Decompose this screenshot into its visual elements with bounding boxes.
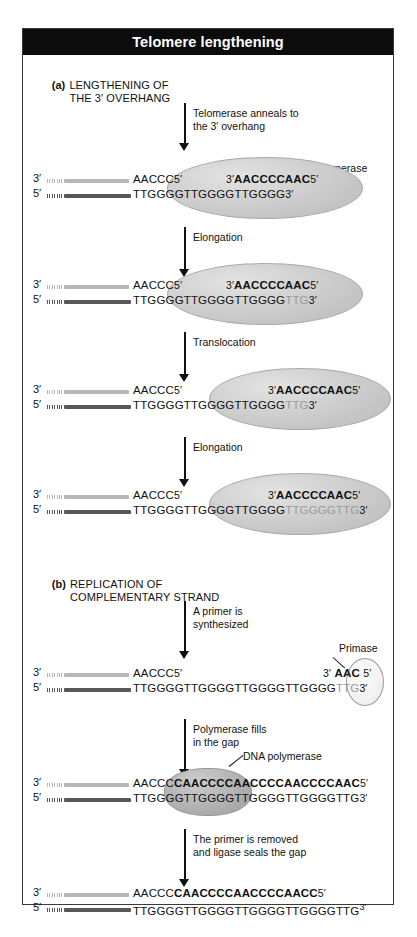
caption-elongation-1: Elongation [193, 231, 243, 244]
strand-top-bar [64, 285, 129, 289]
seq-text: TTGGGGTTGGGGTTGGGGTTGGGGTTG [133, 905, 359, 917]
arrow-translocation [179, 332, 190, 382]
arrow-anneal [179, 103, 190, 151]
rna-sequence: AACCCCAAC [234, 173, 310, 185]
strand-top-dots [47, 179, 64, 183]
strand-bot-dots [47, 798, 64, 802]
panel1-top-sequence: AACCC5′ [133, 173, 182, 185]
strand-top-bar [64, 179, 129, 183]
rna-left-end: 3′ [226, 279, 234, 291]
panel-ligase-sealed: 3′ 5′ AACCCCAACCCCAACCCCAACC5′ TTGGGGTTG… [23, 887, 393, 933]
panel3-bot-sequence: TTGGGGTTGGGGTTGGGGTTG3′ [133, 399, 317, 411]
strand-top-end-3: 3′ [33, 278, 41, 290]
seq-text: TTGGGGTTGGGGTTGGGG [133, 504, 285, 516]
strand-bot-end-5: 5′ [33, 293, 41, 305]
rna-sequence: AACCCCAAC [276, 489, 352, 501]
seq-end: 5′ [174, 279, 182, 291]
panel-primer-synthesis: 3′ 5′ AACCC5′ 3′ AAC 5′ TTGGGGTTGGGGTTGG… [23, 667, 393, 713]
strand-bot-bar [64, 194, 131, 198]
strand-top-dots [47, 893, 64, 897]
seq-text: AACCC [133, 279, 174, 291]
seq-newly-synthesized: TTG [285, 294, 308, 306]
strand-bot-bar [64, 908, 131, 912]
panel4-bot-sequence: TTGGGGTTGGGGTTGGGGTTGGGGTTG3′ [133, 504, 368, 516]
strand-top-end-3: 3′ [33, 383, 41, 395]
seq-end: 3′ [359, 792, 367, 804]
panel5-bot-sequence: TTGGGGTTGGGGTTGGGGTTGGGGTTG3′ [133, 682, 367, 694]
seq-end: 5′ [174, 384, 182, 396]
panel1-bot-sequence: TTGGGGTTGGGGTTGGGG3′ [133, 188, 293, 200]
caption-elongation-2: Elongation [193, 441, 243, 454]
rna-right-end: 5′ [352, 489, 360, 501]
strand-top-dots [47, 783, 64, 787]
strand-top-end-3: 3′ [33, 776, 41, 788]
strand-bot-dots [47, 908, 64, 912]
caption-primer: A primer is synthesized [193, 605, 248, 631]
section-a-marker: (a) [52, 79, 66, 91]
seq-newly-synthesized: TTG [285, 399, 308, 411]
seq-end: 5′ [174, 667, 182, 679]
strand-bot-dots [47, 688, 64, 692]
panel7-top-sequence: AACCCCAACCCCAACCCCAACC5′ [133, 887, 326, 899]
strand-bot-bar [64, 300, 131, 304]
strand-bot-dots [47, 405, 64, 409]
section-a-heading: (a)LENGTHENING OF THE 3′ OVERHANG [39, 65, 170, 119]
strand-bot-end-5: 5′ [33, 901, 41, 913]
arrow-polymerase [179, 719, 190, 777]
panel-anneal: 3′ 5′ AACCC5′ 3′AACCCCAAC5′ TTGGGGTTGGGG… [23, 173, 393, 219]
arrow-primer [179, 601, 190, 659]
arrow-ligase [179, 829, 190, 887]
strand-top-end-3: 3′ [33, 172, 41, 184]
seq-text: TTGGGGTTGGGGTTGGGGTTGGGG [133, 682, 336, 694]
seq-text: TTGGGGTTGGGGTTGGGGTTGGGGTTG [133, 792, 359, 804]
seq-end: 3′ [309, 294, 317, 306]
arrow-elongation-2 [179, 437, 190, 487]
label-primase: Primase [339, 642, 378, 654]
caption-translocation: Translocation [193, 336, 256, 349]
seq-end: 3′ [359, 504, 367, 516]
strand-top-end-3: 3′ [33, 886, 41, 898]
caption-anneal: Telomerase anneals to the 3′ overhang [193, 107, 299, 133]
strand-bot-bar [64, 798, 131, 802]
strand-bot-dots [47, 510, 64, 514]
seq-newly-synthesized: TTGGGGTTG [285, 504, 359, 516]
strand-bot-dots [47, 194, 64, 198]
strand-top-dots [47, 285, 64, 289]
seq-text: TTGGGGTTGGGGTTGGGG [133, 399, 285, 411]
panel-elongation-1: 3′ 5′ AACCC5′ 3′AACCCCAAC5′ TTGGGGTTGGGG… [23, 279, 393, 325]
rna-right-end: 5′ [310, 173, 318, 185]
figure-frame: Telomere lengthening (a)LENGTHENING OF T… [22, 28, 394, 905]
section-b-marker: (b) [52, 578, 66, 590]
panel6-bot-sequence: TTGGGGTTGGGGTTGGGGTTGGGGTTG3′ [133, 792, 367, 804]
strand-top-bar [64, 893, 129, 897]
figure-title-bar: Telomere lengthening [23, 29, 393, 55]
strand-bot-bar [64, 688, 131, 692]
caption-ligase: The primer is removed and ligase seals t… [193, 833, 306, 859]
seq-newly-synthesized: CAACCCCAACCCCAACCCCAAC [174, 777, 360, 789]
seq-end: 3′ [309, 399, 317, 411]
rna-sequence: AACCCCAAC [234, 279, 310, 291]
panel-polymerase-fill: 3′ 5′ AACCCCAACCCCAACCCCAACCCCAAC5′ TTGG… [23, 777, 393, 823]
panel4-rna-template: 3′AACCCCAAC5′ [268, 489, 360, 501]
section-a-line2: THE 3′ OVERHANG [69, 92, 170, 104]
panel2-rna-template: 3′AACCCCAAC5′ [226, 279, 318, 291]
strand-top-bar [64, 390, 129, 394]
seq-text: AACCC [133, 667, 174, 679]
rna-right-end: 5′ [352, 384, 360, 396]
caption-polymerase: Polymerase fills in the gap [193, 723, 267, 749]
strand-top-end-3: 3′ [33, 666, 41, 678]
strand-top-bar [64, 673, 129, 677]
panel1-rna-template: 3′AACCCCAAC5′ [226, 173, 318, 185]
primer-right-end: 5′ [363, 667, 371, 679]
label-dna-polymerase: DNA polymerase [243, 750, 322, 762]
seq-end: 3′ [359, 682, 367, 694]
strand-top-bar [64, 495, 129, 499]
strand-bot-end-5: 5′ [33, 398, 41, 410]
rna-left-end: 3′ [268, 489, 276, 501]
panel7-bot-sequence: TTGGGGTTGGGGTTGGGGTTGGGGTTG3′ [133, 902, 366, 917]
seq-text: AACCC [133, 887, 174, 899]
panel6-top-sequence: AACCCCAACCCCAACCCCAACCCCAAC5′ [133, 777, 368, 789]
rna-left-end: 3′ [226, 173, 234, 185]
rna-left-end: 3′ [268, 384, 276, 396]
strand-bot-end-5: 5′ [33, 503, 41, 515]
